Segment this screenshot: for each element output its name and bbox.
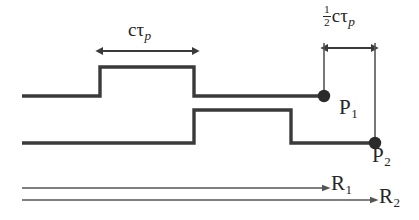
point-p2-label: P2 xyxy=(372,145,391,168)
half-pulse-width-label: 1 2 cτp xyxy=(323,4,355,28)
pulse-width-tau: τ xyxy=(136,19,144,40)
range-r1-label: R1 xyxy=(331,173,352,196)
fraction-numerator: 1 xyxy=(323,4,331,17)
point-p1-label: P1 xyxy=(339,97,358,120)
half-pulse-c: c xyxy=(332,5,340,26)
upper-pulse-trace xyxy=(22,67,324,96)
pulse-range-diagram: cτp 1 2 cτp P1 P2 R1 R2 xyxy=(0,0,419,220)
pulse-width-label: cτp xyxy=(128,20,151,42)
point-p1-dot xyxy=(318,90,330,102)
range-r2-label: R2 xyxy=(379,186,400,209)
half-pulse-tau: τ xyxy=(340,5,348,26)
p2-subscript: 2 xyxy=(384,154,391,169)
r1-subscript: 1 xyxy=(345,182,352,197)
r1-base: R xyxy=(331,171,345,195)
half-pulse-subscript: p xyxy=(348,14,355,29)
p2-base: P xyxy=(372,143,384,167)
one-half-fraction: 1 2 xyxy=(323,4,332,28)
p1-subscript: 1 xyxy=(351,106,358,121)
r2-subscript: 2 xyxy=(393,195,400,210)
lower-pulse-trace xyxy=(22,110,375,143)
pulse-width-subscript: p xyxy=(144,28,151,43)
fraction-denominator: 2 xyxy=(323,17,331,29)
p1-base: P xyxy=(339,95,351,119)
r2-base: R xyxy=(379,184,393,208)
